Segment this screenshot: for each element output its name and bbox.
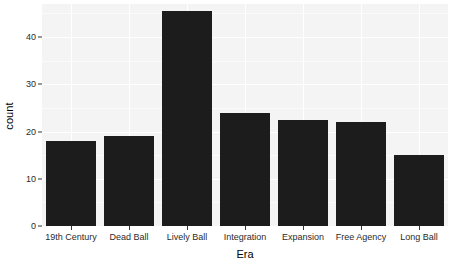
y-axis-tick-label: 40 <box>26 32 36 42</box>
y-axis-tick-label: 10 <box>26 174 36 184</box>
x-axis-title: Era <box>42 248 448 260</box>
x-axis-tick-mark <box>187 226 188 230</box>
x-axis-ticks: 19th CenturyDead BallLively BallIntegrat… <box>42 232 448 248</box>
x-axis-tick-mark <box>71 226 72 230</box>
bar <box>278 120 328 226</box>
x-axis-tick-label: Lively Ball <box>167 232 208 242</box>
x-axis-tick-label: Expansion <box>282 232 324 242</box>
x-axis-tick-label: Free Agency <box>336 232 387 242</box>
y-axis-tick-label: 0 <box>31 221 36 231</box>
bar <box>162 11 212 226</box>
bar-chart: count 010203040 19th CenturyDead BallLiv… <box>0 0 453 275</box>
bar <box>104 136 154 226</box>
y-axis-ticks: 010203040 <box>18 0 42 232</box>
x-axis-tick-marks <box>42 226 448 231</box>
x-axis-tick-label: Dead Ball <box>109 232 148 242</box>
y-axis-tick-label: 20 <box>26 127 36 137</box>
bar <box>220 113 270 226</box>
y-axis-title: count <box>0 0 18 232</box>
bar <box>336 122 386 226</box>
bar <box>46 141 96 226</box>
x-axis-tick-mark <box>361 226 362 230</box>
x-axis-tick-mark <box>129 226 130 230</box>
x-axis-tick-label: Integration <box>224 232 267 242</box>
bar <box>394 155 444 226</box>
x-axis-tick-mark <box>245 226 246 230</box>
x-axis-tick-mark <box>419 226 420 230</box>
y-axis-title-label: count <box>3 102 15 129</box>
x-axis-tick-label: 19th Century <box>45 232 97 242</box>
plot-panel <box>42 4 448 226</box>
x-axis-tick-label: Long Ball <box>400 232 438 242</box>
y-axis-tick-label: 30 <box>26 79 36 89</box>
x-axis-tick-mark <box>303 226 304 230</box>
